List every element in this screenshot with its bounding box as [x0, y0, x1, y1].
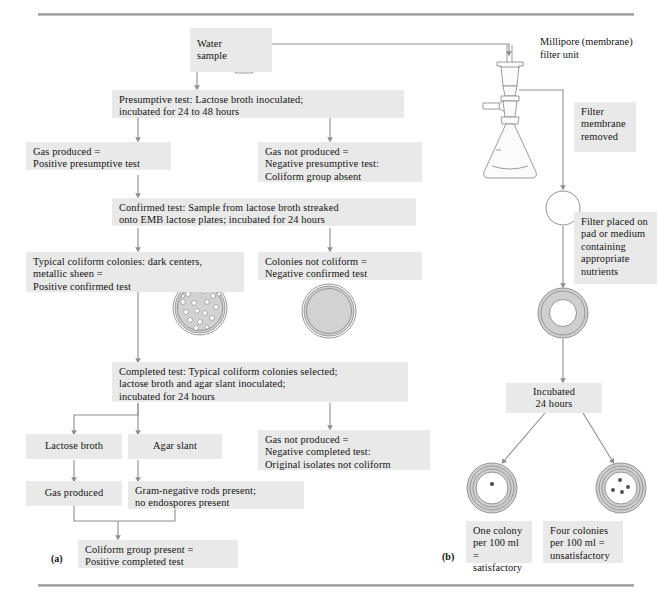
water-sample-label: Water sample [197, 38, 227, 63]
panel-a-caption: (a) [51, 553, 63, 564]
bottom-divider-rule [38, 584, 634, 587]
completed-test-box: Completed test: Typical coliform colonie… [112, 362, 408, 402]
typical-coliform-box: Typical coliform colonies: dark centers,… [26, 252, 244, 292]
gas-produced-positive-box: Gas produced = Positive presumptive test [26, 142, 171, 170]
millipore-filter-unit-label: Millipore (membrane) filter unit [540, 36, 662, 61]
figure-canvas: Water sample Presumptive test: Lactose b… [0, 0, 669, 600]
confirmed-test-box: Confirmed test: Sample from lactose brot… [112, 198, 416, 226]
coliform-group-present-box: Coliform group present = Positive comple… [78, 540, 238, 568]
water-sample-box: Water sample [190, 28, 272, 72]
agar-slant-box: Agar slant [128, 434, 222, 459]
colonies-not-coliform-box: Colonies not coliform = Negative confirm… [258, 252, 422, 280]
presumptive-test-box: Presumptive test: Lactose broth inoculat… [112, 90, 404, 118]
gas-not-produced-negative-box: Gas not produced = Negative presumptive … [258, 142, 422, 182]
top-divider-rule [38, 13, 634, 16]
incubated-24-hours-box: Incubated 24 hours [506, 383, 602, 413]
panel-b-caption: (b) [442, 551, 454, 562]
filter-membrane-removed-box: Filter membrane removed [574, 102, 636, 152]
gas-not-produced-completed-box: Gas not produced = Negative completed te… [258, 430, 430, 470]
one-colony-satisfactory-box: One colony per 100 ml = satisfactory [466, 521, 532, 563]
lactose-broth-box: Lactose broth [26, 434, 122, 459]
filter-placed-on-pad-box: Filter placed on pad or medium containin… [574, 212, 657, 284]
gas-produced-box: Gas produced [26, 481, 122, 506]
four-colonies-unsatisfactory-box: Four colonies per 100 ml = unsatisfactor… [543, 521, 623, 563]
gram-negative-rods-box: Gram-negative rods present; no endospore… [128, 481, 304, 509]
